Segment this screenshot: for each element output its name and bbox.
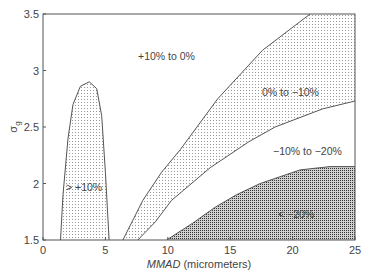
x-axis-label: MMAD (micrometers) [147,258,252,270]
y-tick-label: 2.5 [24,121,39,133]
x-tick-label: 25 [349,244,361,256]
x-tick-label: 10 [162,244,174,256]
x-tick-label: 0 [40,244,46,256]
region-label-10-to-0: +10% to 0% [138,50,195,62]
y-tick-label: 1.5 [24,234,39,246]
region-plus10 [61,82,110,240]
x-tick-label: 5 [102,244,108,256]
y-tick-label: 2 [33,178,39,190]
x-tick-label: 20 [286,244,298,256]
x-tick-label: 15 [224,244,236,256]
contour-chart: 05101520251.522.533.5 > +10% +10% to 0% … [0,0,370,278]
y-tick-label: 3.5 [24,8,39,20]
y-tick-label: 3 [33,65,39,77]
region-label-m10-to-m20: −10% to −20% [273,145,342,157]
region-label-0-to-m10: 0% to −10% [262,86,319,98]
y-axis-label: σg [7,121,22,132]
plot-regions [61,14,356,240]
region-label-plus10: > +10% [66,181,102,193]
region-label-m20: < −20% [278,208,314,220]
